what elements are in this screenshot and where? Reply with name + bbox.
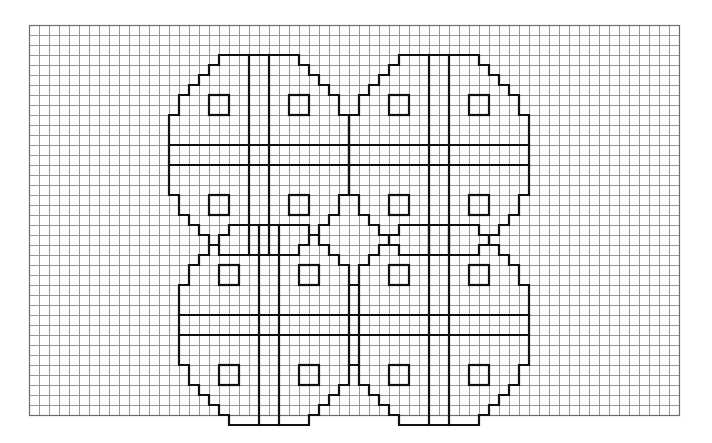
page-background — [0, 0, 712, 443]
pattern-page — [0, 0, 712, 443]
cross-stitch-chart — [0, 0, 712, 443]
